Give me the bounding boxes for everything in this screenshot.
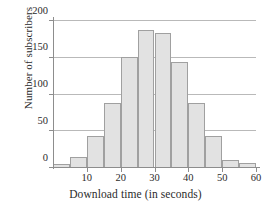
histogram-bar bbox=[121, 57, 138, 168]
histogram-bar bbox=[188, 103, 205, 168]
y-axis-line bbox=[53, 17, 54, 169]
histogram-bar bbox=[138, 30, 155, 168]
y-tick-label-150: 150 bbox=[32, 42, 48, 53]
plot-area: 050100150200 102030405060 bbox=[53, 21, 256, 168]
histogram-bar bbox=[104, 103, 121, 168]
histogram-figure: Number of subscribers 050100150200 10203… bbox=[0, 0, 271, 213]
y-axis-title: Number of subscribers bbox=[22, 0, 34, 133]
x-axis-title: Download time (in seconds) bbox=[0, 188, 271, 200]
histogram-bar bbox=[171, 62, 188, 168]
y-tick-label-200: 200 bbox=[32, 5, 48, 16]
x-tick-label-50: 50 bbox=[217, 173, 228, 184]
y-tick-label-0: 0 bbox=[43, 152, 48, 163]
y-tick-label-50: 50 bbox=[38, 116, 49, 127]
gridline-200 bbox=[53, 20, 256, 21]
y-tick-label-100: 100 bbox=[32, 79, 48, 90]
x-tick-label-60: 60 bbox=[251, 173, 262, 184]
histogram-bar bbox=[155, 33, 172, 168]
x-axis-line bbox=[49, 167, 260, 168]
histogram-bar bbox=[87, 136, 104, 168]
x-tick-label-10: 10 bbox=[82, 173, 93, 184]
x-tick-label-20: 20 bbox=[115, 173, 126, 184]
x-tick-label-40: 40 bbox=[183, 173, 194, 184]
x-tick-label-30: 30 bbox=[149, 173, 160, 184]
histogram-bar bbox=[205, 136, 222, 168]
